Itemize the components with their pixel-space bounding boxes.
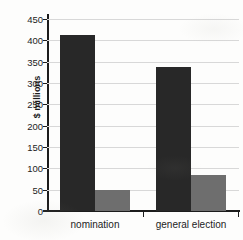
y-axis-tick	[43, 83, 47, 84]
x-axis-category-label: general election	[156, 219, 227, 230]
y-axis-tick	[43, 104, 47, 105]
y-axis-tick	[43, 126, 47, 127]
y-axis-tick	[43, 190, 47, 191]
y-axis-tick-label: 0	[15, 206, 43, 217]
y-axis-tick-label: 250	[15, 99, 43, 110]
bar	[156, 67, 191, 211]
x-axis-group-separator	[143, 211, 144, 217]
y-axis-tick	[43, 19, 47, 20]
y-axis-spine	[47, 14, 49, 211]
x-axis-category-label: nomination	[71, 219, 120, 230]
y-axis-tick-label: 200	[15, 120, 43, 131]
y-axis-tick-label: 400	[15, 35, 43, 46]
y-axis-tick-label: 100	[15, 163, 43, 174]
bar	[191, 175, 226, 211]
y-axis-tick-label: 300	[15, 78, 43, 89]
y-axis-tick-labels: 050100150200250300350400450	[14, 0, 43, 240]
x-axis-end-tick	[238, 211, 239, 217]
plot-area	[47, 19, 239, 211]
y-axis-tick	[43, 62, 47, 63]
bar	[95, 190, 130, 211]
y-axis-tick-label: 150	[15, 142, 43, 153]
bar-chart: $ millions 050100150200250300350400450 n…	[0, 0, 243, 240]
y-axis-tick	[43, 211, 47, 212]
bar	[60, 35, 95, 211]
y-axis-tick	[43, 40, 47, 41]
y-axis-tick-label: 50	[15, 184, 43, 195]
gridline	[47, 19, 239, 20]
y-axis-tick-label: 450	[15, 14, 43, 25]
y-axis-tick	[43, 147, 47, 148]
y-axis-tick	[43, 168, 47, 169]
y-axis-tick-label: 350	[15, 56, 43, 67]
